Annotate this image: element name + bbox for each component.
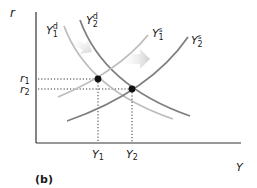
equilibrium-point-2 <box>129 86 136 93</box>
y2-label: Y2 <box>126 148 138 162</box>
supply-curve-1-label: Ys1 <box>152 26 163 42</box>
x-axis-label: Y <box>236 161 244 174</box>
is-lm-shift-diagram: r Y r1 r2 Y1 Y2 Yd1 Yd2 Ys1 Ys2 (b) <box>0 0 257 188</box>
panel-label: (b) <box>35 173 53 186</box>
supply-curve-2-label: Ys2 <box>191 33 202 49</box>
demand-curve-2 <box>80 20 190 116</box>
equilibrium-point-1 <box>95 76 102 83</box>
supply-shift-arrow-icon <box>122 49 150 69</box>
demand-curve-2-label: Yd2 <box>86 12 98 29</box>
demand-curve-1-label: Yd1 <box>46 22 58 39</box>
y-axis-label: r <box>10 6 16 20</box>
y1-label: Y1 <box>92 148 104 162</box>
